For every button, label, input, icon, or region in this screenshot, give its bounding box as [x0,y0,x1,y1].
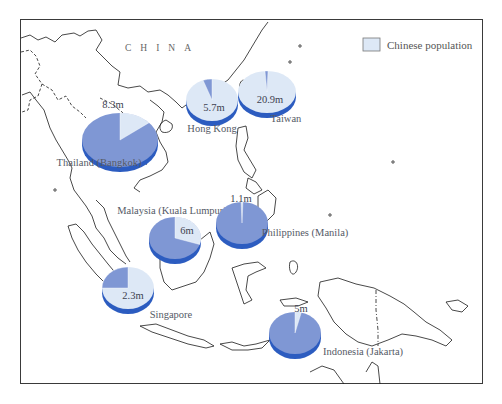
island-java [140,324,214,348]
pie-value-label: 2.3m [122,290,143,301]
pie-slice [102,267,128,288]
map-canvas: CHINA 8.3mThailand (Bangkok)5.7mHong Kon… [0,0,502,404]
pie-singapore: 2.3mSingapore [102,267,193,320]
island-timor-area [310,366,344,384]
pie-country-label: Thailand (Bangkok) [57,157,142,169]
border-png [376,290,378,346]
pie-value-label: 5.7m [203,102,224,113]
pie-country-label: Singapore [150,309,193,320]
islands-visayas [246,178,262,194]
pie-value-label: 8.3m [102,99,123,110]
coast-mainland-north [21,30,182,108]
legend: Chinese population [363,38,473,51]
island-dot [299,45,301,47]
pie-philippines: 1.1mPhilippines (Manila) [216,193,349,249]
island-dot [392,161,394,163]
border-dashed-west [21,50,42,112]
pie-taiwan: 20.9mTaiwan [238,71,302,124]
island-dot [54,189,56,191]
pie-indonesia: 5mIndonesia (Jakarta) [269,303,404,359]
pie-value-label: 5m [294,303,307,314]
island-australia-tip [366,362,380,384]
pie-country-label: Philippines (Manila) [262,227,349,239]
pie-thailand: 8.3mThailand (Bangkok) [57,99,158,172]
island-dot [329,214,331,216]
island-dot [289,61,291,63]
pie-value-label: 6m [180,225,193,236]
island-new-britain [446,300,468,312]
pie-country-label: Taiwan [271,113,303,124]
island-halmahera [289,261,297,274]
pie-country-label: Malaysia (Kuala Lumpur) [117,205,227,217]
islands-lesser-sunda [220,340,270,350]
pie-country-label: Indonesia (Jakarta) [323,346,404,358]
country-label-china: CHINA [125,43,200,53]
pie-hong-kong: 5.7mHong Kong [186,79,238,134]
pie-value-label: 20.9m [257,94,284,105]
island-new-guinea [318,278,452,346]
island-sulawesi [232,262,266,304]
map-figure: CHINA 8.3mThailand (Bangkok)5.7mHong Kon… [0,0,502,404]
border-dashed-myanmar [42,84,86,118]
legend-swatch [363,38,380,51]
island-luzon [236,126,256,178]
legend-label: Chinese population [387,39,473,51]
pie-value-label: 1.1m [230,193,251,204]
pie-country-label: Hong Kong [187,123,237,134]
pie-layer: 8.3mThailand (Bangkok)5.7mHong Kong20.9m… [57,71,404,359]
